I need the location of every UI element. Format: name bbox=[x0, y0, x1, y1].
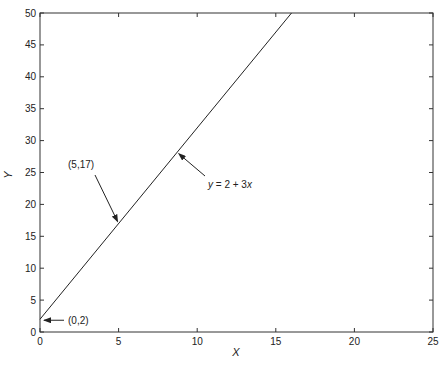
y-tick-label: 50 bbox=[25, 8, 37, 19]
y-tick-label: 5 bbox=[30, 295, 36, 306]
line-chart: 0510152025 05101520253035404550 (0,2)(5,… bbox=[0, 0, 447, 367]
x-axis-label: X bbox=[231, 346, 240, 358]
x-tick-label: 10 bbox=[192, 336, 204, 347]
y-tick-label: 0 bbox=[30, 327, 36, 338]
annotations: (0,2)(5,17)y = 2 + 3x bbox=[44, 154, 253, 327]
x-tick-label: 15 bbox=[270, 336, 282, 347]
annotation-equation: y = 2 + 3x bbox=[207, 179, 253, 190]
x-tick-label: 0 bbox=[37, 336, 43, 347]
annotation-origin: (0,2) bbox=[68, 315, 89, 326]
arrow-equation bbox=[179, 154, 205, 176]
y-tick-label: 25 bbox=[25, 167, 37, 178]
y-tick-label: 45 bbox=[25, 39, 37, 50]
annotation-point: (5,17) bbox=[68, 159, 94, 170]
axes-box bbox=[40, 13, 433, 332]
arrow-point bbox=[95, 175, 118, 222]
y-tick-label: 30 bbox=[25, 135, 37, 146]
y-axis-label: Y bbox=[2, 171, 14, 179]
x-tick-label: 25 bbox=[427, 336, 439, 347]
y-tick-label: 15 bbox=[25, 231, 37, 242]
y-tick-label: 20 bbox=[25, 199, 37, 210]
x-tick-label: 20 bbox=[349, 336, 361, 347]
y-tick-label: 35 bbox=[25, 103, 37, 114]
y-tick-label: 40 bbox=[25, 71, 37, 82]
y-axis-ticks: 05101520253035404550 bbox=[25, 8, 433, 338]
x-tick-label: 5 bbox=[116, 336, 122, 347]
y-tick-label: 10 bbox=[25, 263, 37, 274]
plot-frame bbox=[40, 13, 433, 332]
